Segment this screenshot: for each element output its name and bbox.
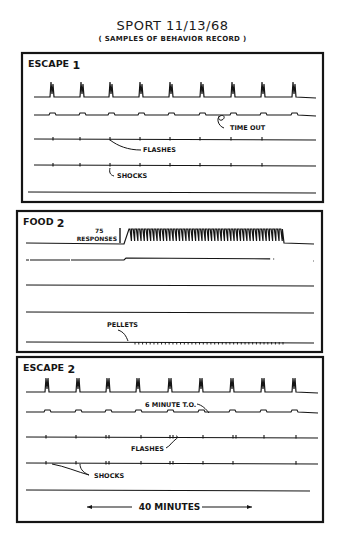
shock-trace bbox=[34, 165, 316, 166]
flash-trace bbox=[34, 139, 316, 140]
annotation-flashes: FLASHES bbox=[143, 146, 176, 154]
scale-bar-unit: RESPONSES bbox=[77, 235, 117, 242]
food-trace-3 bbox=[26, 285, 314, 286]
response-trace bbox=[34, 82, 316, 98]
arrow-right-icon bbox=[247, 505, 252, 509]
annotation-6-minute-t-o-: 6 MINUTE T.O. bbox=[145, 401, 196, 409]
base-trace bbox=[26, 490, 310, 491]
timeout-step-trace bbox=[26, 410, 318, 413]
time-out-pointer bbox=[218, 115, 224, 128]
annotation-shocks: SHOCKS bbox=[117, 172, 147, 180]
response-trace bbox=[26, 378, 318, 393]
panel-label: FOOD 2 bbox=[23, 216, 65, 230]
food-response-trace bbox=[26, 229, 314, 244]
panel-label: ESCAPE 1 bbox=[28, 58, 80, 72]
shocks-pointer-1 bbox=[52, 464, 89, 475]
panel-label: ESCAPE 2 bbox=[23, 362, 75, 376]
timeout-step-trace bbox=[34, 113, 316, 116]
food-trace-4 bbox=[26, 312, 314, 313]
panel-escape1: ESCAPE 1TIME OUTFLASHESSHOCKS bbox=[22, 53, 323, 202]
arrow-left-icon bbox=[87, 505, 92, 509]
shocks-pointer bbox=[110, 168, 114, 176]
behavior-record-figure: ESCAPE 1TIME OUTFLASHESSHOCKSFOOD 275RES… bbox=[0, 0, 345, 539]
annotation-time-out: TIME OUT bbox=[230, 124, 266, 132]
annotation-flashes: FLASHES bbox=[131, 445, 164, 453]
panel-border bbox=[22, 53, 323, 202]
time-scale-label: 40 MINUTES bbox=[139, 502, 201, 512]
panel-food2: FOOD 275RESPONSESPELLETS bbox=[17, 211, 322, 352]
flashes-pointer bbox=[110, 140, 141, 150]
shock-trace bbox=[26, 463, 318, 464]
flash-trace bbox=[26, 437, 318, 438]
panel-escape2: ESCAPE 26 MINUTE T.O.FLASHESSHOCKS40 MIN… bbox=[17, 357, 323, 522]
pellet-trace bbox=[26, 342, 314, 343]
food-step-trace bbox=[26, 258, 314, 261]
base-trace bbox=[28, 192, 316, 193]
annotation-pellets: PELLETS bbox=[107, 321, 138, 329]
annotation-shocks: SHOCKS bbox=[94, 472, 124, 480]
pellets-pointer bbox=[118, 330, 128, 341]
scale-bar-count: 75 bbox=[95, 227, 103, 234]
panel-border bbox=[17, 357, 323, 522]
